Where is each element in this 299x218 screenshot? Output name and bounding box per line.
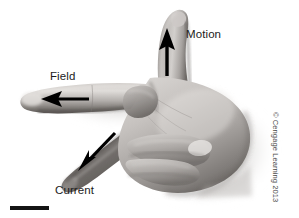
label-field: Field: [50, 71, 75, 83]
label-current: Current: [55, 185, 94, 197]
label-motion: Motion: [186, 29, 221, 41]
copyright-notice: © Cengage Learning 2013: [271, 112, 280, 202]
figure-motor-rule: Motion Field Current © Cengage Learning …: [0, 0, 299, 218]
hand-photograph: [0, 0, 299, 218]
scale-bar: [10, 206, 49, 210]
